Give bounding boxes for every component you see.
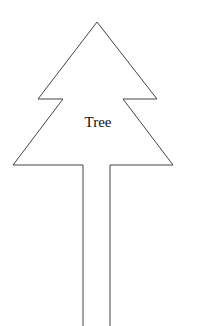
tree-diagram: Tree <box>0 0 199 326</box>
tree-label: Tree <box>63 113 133 131</box>
tree-shape <box>0 0 199 326</box>
tree-outline <box>13 22 173 326</box>
